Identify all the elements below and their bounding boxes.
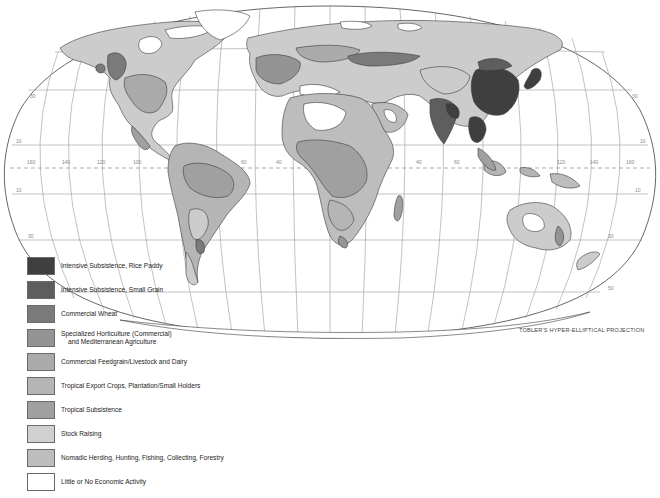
svg-text:140: 140: [62, 159, 71, 165]
legend-label-line2: and Mediterranean Agriculture: [61, 338, 172, 346]
svg-text:120: 120: [97, 159, 106, 165]
svg-text:50: 50: [608, 285, 614, 291]
svg-text:10: 10: [16, 187, 22, 193]
legend-label-line1: Specialized Horticulture (Commercial): [61, 330, 172, 337]
legend-item-tropical-export: Tropical Export Crops, Plantation/Small …: [27, 374, 387, 398]
legend-label: Intensive Subsistence, Rice Paddy: [61, 262, 163, 270]
svg-text:60: 60: [454, 159, 460, 165]
legend-label: Nomadic Herding, Hunting, Fishing, Colle…: [61, 454, 224, 462]
svg-text:140: 140: [590, 159, 599, 165]
swatch-tropical-export: [27, 377, 55, 395]
svg-text:30: 30: [608, 233, 614, 239]
legend-item-little-none: Little or No Economic Activity: [27, 470, 387, 494]
svg-text:120: 120: [557, 159, 566, 165]
swatch-little-none: [27, 473, 55, 491]
legend-item-commercial-wheat: Commercial Wheat: [27, 302, 387, 326]
svg-text:10: 10: [16, 138, 22, 144]
projection-label: TOBLER'S HYPER-ELLIPTICAL PROJECTION: [519, 327, 644, 333]
svg-text:10: 10: [640, 138, 646, 144]
legend-item-horticulture: Specialized Horticulture (Commercial) an…: [27, 326, 387, 350]
legend-label: Commercial Wheat: [61, 310, 117, 318]
north-america: [60, 21, 230, 162]
legend-label: Commercial Feedgrain/Livestock and Dairy: [61, 358, 187, 366]
oceania: [507, 167, 600, 270]
legend: Intensive Subsistence, Rice Paddy Intens…: [27, 254, 387, 494]
legend-item-small-grain: Intensive Subsistence, Small Grain: [27, 278, 387, 302]
svg-text:160: 160: [27, 159, 36, 165]
svg-text:30: 30: [28, 233, 34, 239]
svg-text:160: 160: [626, 159, 635, 165]
swatch-nomadic: [27, 449, 55, 467]
legend-item-stock-raising: Stock Raising: [27, 422, 387, 446]
legend-item-rice-paddy: Intensive Subsistence, Rice Paddy: [27, 254, 387, 278]
svg-text:40: 40: [416, 159, 422, 165]
swatch-commercial-wheat: [27, 305, 55, 323]
legend-item-tropical-subsistence: Tropical Subsistence: [27, 398, 387, 422]
legend-label: Tropical Subsistence: [61, 406, 122, 414]
legend-label: Specialized Horticulture (Commercial) an…: [61, 330, 172, 346]
swatch-small-grain: [27, 281, 55, 299]
legend-label: Intensive Subsistence, Small Grain: [61, 286, 163, 294]
legend-item-feedgrain: Commercial Feedgrain/Livestock and Dairy: [27, 350, 387, 374]
svg-text:30: 30: [30, 93, 36, 99]
swatch-feedgrain: [27, 353, 55, 371]
swatch-stock-raising: [27, 425, 55, 443]
legend-label: Little or No Economic Activity: [61, 478, 146, 486]
svg-text:40: 40: [276, 159, 282, 165]
legend-label: Tropical Export Crops, Plantation/Small …: [61, 382, 200, 390]
svg-text:30: 30: [632, 93, 638, 99]
legend-item-nomadic: Nomadic Herding, Hunting, Fishing, Colle…: [27, 446, 387, 470]
swatch-rice-paddy: [27, 257, 55, 275]
svg-text:60: 60: [241, 159, 247, 165]
svg-text:10: 10: [635, 187, 641, 193]
swatch-horticulture: [27, 329, 55, 347]
svg-text:100: 100: [133, 159, 142, 165]
swatch-tropical-subsistence: [27, 401, 55, 419]
legend-label: Stock Raising: [61, 430, 101, 438]
